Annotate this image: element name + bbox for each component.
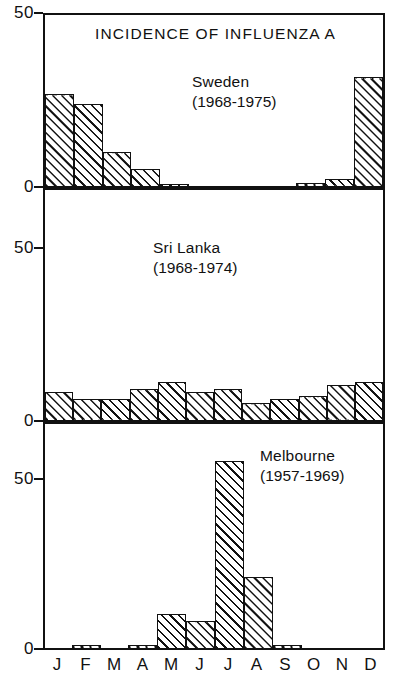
bar-sweden-A [131,169,160,186]
bar-melbourne-J [186,621,215,648]
ytick-mark-sri-lanka-0 [34,420,43,422]
month-label-10: N [328,655,357,675]
ytick-mark-sweden-0 [34,186,43,188]
bar-sweden-M [160,184,189,186]
bar-sweden-J [45,94,74,186]
influenza-incidence-figure: INCIDENCE OF INFLUENZA A Sweden (1968-19… [0,0,394,685]
month-label-2: M [100,655,129,675]
month-label-3: A [129,655,158,675]
ytick-label-sweden-0: 0 [0,178,34,195]
ytick-mark-melbourne-50 [34,478,43,480]
month-label-5: J [186,655,215,675]
x-axis-month-labels: JFMAMJJASOND [43,655,385,675]
panel-melbourne: Melbourne (1957-1969) [43,422,385,650]
month-label-1: F [72,655,101,675]
bar-sweden-O [296,183,325,186]
bar-series-sweden [45,15,383,186]
bar-series-melbourne [45,424,383,648]
bar-sri-lanka-M [101,399,129,420]
bar-sri-lanka-S [270,399,298,420]
bar-sri-lanka-M [158,382,186,420]
ytick-mark-melbourne-0 [34,648,43,650]
month-label-6: J [214,655,243,675]
bar-sri-lanka-J [186,392,214,420]
month-label-9: O [300,655,329,675]
bar-sri-lanka-A [242,403,270,420]
ytick-mark-sri-lanka-50 [34,247,43,249]
bar-melbourne-J [215,461,244,648]
bar-sweden-M [103,152,132,186]
ytick-label-sri-lanka-0: 0 [0,412,34,429]
panel-sri-lanka: Sri Lanka (1968-1974) [43,188,385,422]
bar-series-sri-lanka [45,190,383,420]
bar-sri-lanka-J [214,389,242,420]
bar-sri-lanka-F [73,399,101,420]
month-label-0: J [43,655,72,675]
ytick-mark-sweden-50 [34,12,43,14]
bar-sri-lanka-J [45,392,73,420]
bar-sri-lanka-A [130,389,158,420]
month-label-8: S [271,655,300,675]
panel-sweden: INCIDENCE OF INFLUENZA A Sweden (1968-19… [43,13,385,188]
bar-melbourne-F [72,645,101,648]
month-label-7: A [243,655,272,675]
ytick-label-melbourne-50: 50 [0,470,34,487]
ytick-label-sweden-50: 50 [0,4,34,21]
bar-melbourne-S [273,645,302,648]
ytick-label-melbourne-0: 0 [0,640,34,657]
bar-sweden-F [74,104,103,186]
month-label-11: D [357,655,386,675]
ytick-label-sri-lanka-50: 50 [0,239,34,256]
bar-melbourne-M [157,614,186,648]
bar-sweden-N [325,179,354,186]
bar-sri-lanka-N [327,385,355,420]
month-label-4: M [157,655,186,675]
bar-melbourne-A [244,577,273,648]
bar-sri-lanka-D [355,382,383,420]
bar-sweden-D [354,77,383,186]
bar-melbourne-A [128,645,157,648]
bar-sri-lanka-O [299,396,327,420]
